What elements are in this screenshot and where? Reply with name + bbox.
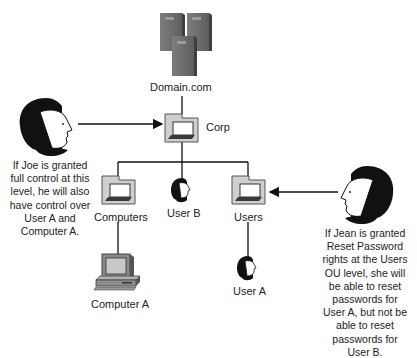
node-label-domain: Domain.com [150, 81, 212, 94]
caption-line: level, he will also [0, 185, 100, 198]
caption-jean: If Jean is granted Reset Password rights… [313, 227, 417, 358]
caption-line: rights at the Users [313, 253, 417, 266]
caption-line: User B. [313, 346, 417, 358]
caption-line: User A and [0, 212, 100, 225]
caption-line: full control at this [0, 172, 100, 185]
desktop-computer-icon [94, 254, 140, 290]
caption-line: be able to reset [313, 280, 417, 293]
caption-line: passwords for [313, 293, 417, 306]
person-icon-jean [341, 166, 393, 224]
ou-folder-icon-users [232, 176, 265, 204]
node-label-computers: Computers [94, 211, 148, 224]
caption-joe: If Joe is granted full control at this l… [0, 159, 100, 238]
user-icon-user-a [237, 256, 256, 280]
node-label-user-a: User A [233, 285, 266, 298]
caption-line: passwords for [313, 333, 417, 346]
caption-line: Computer A. [0, 225, 100, 238]
node-label-corp: Corp [206, 121, 230, 134]
caption-line: User A, but not be [313, 306, 417, 319]
ou-folder-icon-computers [102, 176, 135, 204]
caption-line: able to reset [313, 319, 417, 332]
node-label-computer-a: Computer A [91, 298, 149, 311]
node-label-user-b: User B [167, 207, 201, 220]
node-label-users: Users [234, 211, 263, 224]
person-icon-joe [20, 98, 72, 156]
caption-line: If Joe is granted [0, 159, 100, 172]
caption-line: OU level, she will [313, 267, 417, 280]
caption-line: If Jean is granted [313, 227, 417, 240]
caption-line: have control over [0, 199, 100, 212]
server-cluster-icon [160, 13, 212, 76]
ou-folder-icon-corp [165, 114, 198, 142]
user-icon-user-b [171, 178, 190, 202]
caption-line: Reset Password [313, 240, 417, 253]
